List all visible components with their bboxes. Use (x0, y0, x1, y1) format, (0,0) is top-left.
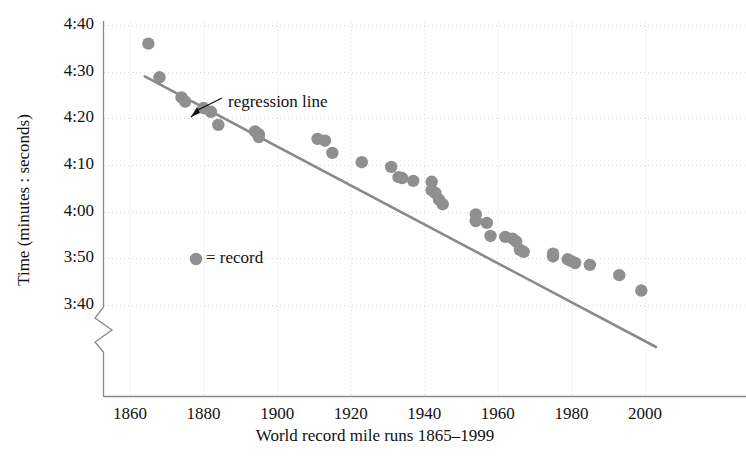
chart-figure: regression line = record 186018801900192… (0, 0, 746, 461)
data-point (547, 250, 559, 262)
data-point (470, 215, 482, 227)
y-tick-label: 3:50 (64, 247, 94, 266)
data-point (407, 175, 419, 187)
x-tick-label: 1960 (481, 404, 515, 423)
y-tick-label: 3:40 (64, 294, 94, 313)
y-tick-label: 4:40 (64, 14, 94, 33)
y-tick-label: 4:10 (64, 154, 94, 173)
data-point (153, 71, 165, 83)
x-axis-title: World record mile runs 1865–1999 (256, 426, 494, 445)
y-tick-label: 4:20 (64, 107, 94, 126)
y-axis-title: Time (minutes : seconds) (14, 114, 33, 286)
data-point (517, 246, 529, 258)
legend-record-marker-icon (190, 253, 202, 265)
data-point (205, 106, 217, 118)
data-point (584, 259, 596, 271)
y-tick-label: 4:00 (64, 201, 94, 220)
data-point (396, 172, 408, 184)
data-point (569, 257, 581, 269)
data-point (635, 284, 647, 296)
data-point (613, 269, 625, 281)
chart-background (0, 0, 746, 461)
legend-record-label: = record (206, 248, 264, 267)
data-point (356, 156, 368, 168)
x-tick-label: 1880 (187, 404, 221, 423)
x-tick-label: 1900 (260, 404, 294, 423)
regression-line-label: regression line (228, 92, 328, 111)
data-point (326, 147, 338, 159)
world-record-mile-scatter-chart: regression line = record 186018801900192… (0, 0, 746, 461)
data-point (385, 161, 397, 173)
data-point (319, 135, 331, 147)
x-tick-label: 1980 (554, 404, 588, 423)
data-point (253, 131, 265, 143)
data-point (179, 95, 191, 107)
data-point (436, 198, 448, 210)
data-point (212, 119, 224, 131)
data-point (484, 230, 496, 242)
x-tick-label: 1860 (113, 404, 147, 423)
y-tick-label: 4:30 (64, 61, 94, 80)
x-tick-label: 1940 (407, 404, 441, 423)
x-tick-label: 1920 (334, 404, 368, 423)
data-point (481, 217, 493, 229)
data-point (142, 37, 154, 49)
x-tick-label: 2000 (628, 404, 662, 423)
